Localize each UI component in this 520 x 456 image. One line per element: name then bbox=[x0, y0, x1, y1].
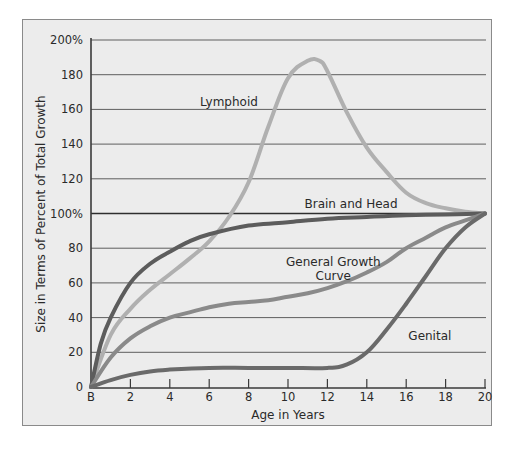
x-tick-label: B bbox=[87, 390, 95, 404]
general-growth-curve-label: General GrowthCurve bbox=[286, 255, 381, 283]
y-axis-ticks: 020406080100%120140160180200% bbox=[50, 33, 83, 394]
y-tick-label: 160 bbox=[61, 102, 83, 116]
x-tick-label: 2 bbox=[127, 390, 134, 404]
x-axis-ticks: B2468101214161820 bbox=[87, 379, 492, 404]
y-axis-title: Size in Terms of Percent of Total Growth bbox=[34, 95, 48, 332]
general-growth-curve-curve bbox=[91, 214, 485, 388]
y-tick-label: 40 bbox=[68, 311, 83, 325]
x-axis-title: Age in Years bbox=[251, 408, 324, 422]
x-tick-label: 6 bbox=[206, 390, 213, 404]
x-tick-label: 18 bbox=[438, 390, 453, 404]
x-tick-label: 8 bbox=[245, 390, 252, 404]
x-tick-label: 20 bbox=[478, 390, 493, 404]
y-tick-label: 60 bbox=[68, 276, 83, 290]
y-tick-label: 80 bbox=[68, 241, 83, 255]
y-tick-label: 140 bbox=[61, 137, 83, 151]
y-tick-label: 120 bbox=[61, 172, 83, 186]
brain-and-head-label: Brain and Head bbox=[305, 197, 398, 211]
x-tick-label: 16 bbox=[399, 390, 414, 404]
horizontal-gridlines bbox=[91, 40, 486, 352]
lymphoid-label: Lymphoid bbox=[200, 95, 258, 109]
genital-label: Genital bbox=[408, 329, 451, 343]
x-tick-label: 10 bbox=[281, 390, 296, 404]
y-tick-label: 20 bbox=[68, 345, 83, 359]
y-tick-label: 100% bbox=[50, 207, 83, 221]
y-tick-label: 180 bbox=[61, 68, 83, 82]
y-tick-label: 0 bbox=[76, 380, 83, 394]
x-tick-label: 4 bbox=[166, 390, 173, 404]
x-tick-label: 12 bbox=[320, 390, 335, 404]
growth-curves-chart: B2468101214161820 020406080100%120140160… bbox=[0, 0, 520, 456]
x-tick-label: 14 bbox=[359, 390, 374, 404]
y-tick-label: 200% bbox=[50, 33, 83, 47]
